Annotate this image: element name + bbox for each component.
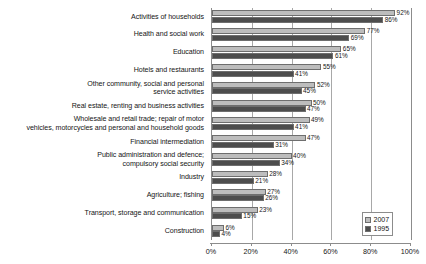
bar-group: 28%21% [212,169,411,187]
bar-group: 77%69% [212,26,411,44]
bar-row: 40% [212,153,411,159]
bar-1995 [212,88,302,94]
bar-row: 27% [212,189,411,195]
bar-value-label: 4% [220,231,231,237]
bar-group: 52%45% [212,79,411,97]
bar-value-label: 86% [383,17,397,23]
bar-group: 92%86% [212,8,411,26]
bar-1995 [212,124,294,130]
bar-value-label: 40% [292,153,306,159]
bar-1995 [212,178,254,184]
axis-tick [251,243,252,246]
axis-tick [330,243,331,246]
legend-swatch-icon [365,226,371,232]
legend-swatch-icon [365,217,371,223]
category-label: Industry [0,169,208,187]
bar-row: 47% [212,135,411,141]
bar-value-label: 47% [306,106,320,112]
category-label: Hotels and restaurants [0,62,208,80]
bar-1995 [212,35,349,41]
axis-tick-label: 80% [363,247,377,256]
category-label: Education [0,44,208,62]
category-label: Agriculture; fishing [0,186,208,204]
bar-row: 34% [212,160,411,166]
category-label-text: Public administration and defence;compul… [97,151,204,168]
bar-group: 65%61% [212,44,411,62]
axis-tick [211,243,212,246]
bar-row: 55% [212,64,411,70]
bar-value-label: 28% [268,171,282,177]
bar-row: 86% [212,17,411,23]
axis-tick-label: 100% [401,247,419,256]
bar-2007 [212,82,315,88]
bar-value-label: 15% [242,213,256,219]
bar-value-label: 55% [321,64,335,70]
bar-value-label: 52% [315,82,329,88]
bar-row: 49% [212,117,411,123]
category-axis: Activities of householdsHealth and socia… [0,8,208,240]
category-label-text: Industry [179,173,204,182]
bar-row: 69% [212,35,411,41]
bar-value-label: 31% [274,142,288,148]
bar-1995 [212,195,264,201]
bar-group: 27%26% [212,186,411,204]
bar-value-label: 47% [306,135,320,141]
bar-1995 [212,53,333,59]
bar-row: 77% [212,28,411,34]
bar-row: 28% [212,171,411,177]
plot-area: 92%86%77%69%65%61%55%41%52%45%50%47%49%4… [211,8,412,240]
legend-label: 1995 [374,225,390,233]
bar-group: 50%47% [212,97,411,115]
bar-1995 [212,231,220,237]
bar-group: 47%31% [212,133,411,151]
category-label: Public administration and defence;compul… [0,151,208,169]
bar-2007 [212,10,395,16]
category-label-text: Agriculture; fishing [147,191,204,200]
category-label: Real estate, renting and business activi… [0,97,208,115]
category-label-text: Hotels and restaurants [134,66,204,75]
axis-tick [370,243,371,246]
bar-2007 [212,28,365,34]
bar-row: 92% [212,10,411,16]
bar-value-label: 45% [302,88,316,94]
bar-value-label: 92% [395,10,409,16]
category-label-text: Health and social work [134,30,204,39]
bar-group: 55%41% [212,62,411,80]
bar-value-label: 61% [333,53,347,59]
bar-value-label: 49% [310,117,324,123]
category-label-text: Construction [165,227,204,236]
bar-2007 [212,135,306,141]
bar-row: 41% [212,124,411,130]
bar-2007 [212,189,266,195]
bar-value-label: 77% [365,28,379,34]
bar-value-label: 21% [254,177,268,183]
bar-1995 [212,160,280,166]
category-label: Financial intermediation [0,133,208,151]
category-label: Transport, storage and communication [0,204,208,222]
category-label: Construction [0,222,208,240]
axis-tick-label: 0% [206,247,216,256]
bar-value-label: 23% [258,207,272,213]
axis-tick-label: 20% [244,247,258,256]
bar-row: 61% [212,53,411,59]
bar-value-label: 41% [294,70,308,76]
category-label-text: Education [173,48,204,57]
legend-item-1995: 1995 [365,224,389,233]
bar-group: 40%34% [212,151,411,169]
category-label-text: Financial intermediation [130,138,204,147]
category-label-text: Real estate, renting and business activi… [72,102,204,111]
bar-row: 65% [212,46,411,52]
bar-value-label: 26% [264,195,278,201]
bar-row: 41% [212,71,411,77]
bar-row: 21% [212,178,411,184]
bar-value-label: 34% [280,160,294,166]
bar-value-label: 41% [294,124,308,130]
category-label: Wholesale and retail trade; repair of mo… [0,115,208,133]
axis-tick [410,243,411,246]
bar-row: 47% [212,106,411,112]
bar-1995 [212,71,294,77]
category-label-text: Transport, storage and communication [85,209,204,218]
axis-tick-label: 40% [283,247,297,256]
chart-legend: 20071995 [362,212,393,236]
legend-label: 2007 [374,216,390,224]
